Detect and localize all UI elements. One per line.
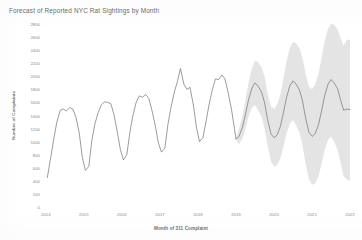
actual-series-line: [47, 68, 236, 177]
chart-container: Forecast of Reported NYC Rat Sightings b…: [0, 0, 362, 240]
plot-area: [0, 0, 362, 240]
x-axis-title: Month of 311 Complaint: [0, 226, 362, 231]
forecast-confidence-band: [236, 24, 350, 185]
